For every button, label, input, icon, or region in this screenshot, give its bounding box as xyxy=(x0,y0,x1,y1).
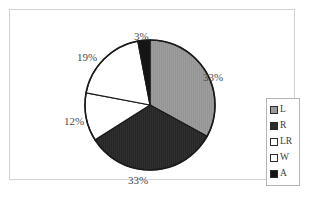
legend-label-lr: LR xyxy=(280,137,292,147)
pie-label-lr: 12% xyxy=(64,115,84,127)
legend-swatch-r-icon xyxy=(270,122,278,130)
legend-item-w: W xyxy=(270,150,299,166)
pie-label-r: 33% xyxy=(128,174,148,186)
legend-swatch-l-icon xyxy=(270,106,278,114)
plot-frame: 3% 19% 12% 33% 33% L R LR W A xyxy=(9,9,295,180)
pie-label-w: 19% xyxy=(77,51,97,63)
legend-item-r: R xyxy=(270,118,299,134)
legend-label-l: L xyxy=(280,105,286,115)
pie-svg xyxy=(83,38,217,172)
legend-item-a: A xyxy=(270,166,299,182)
legend-label-w: W xyxy=(280,153,289,163)
pie-chart-figure: 3% 19% 12% 33% 33% L R LR W A xyxy=(0,0,314,197)
legend-swatch-a-icon xyxy=(270,170,278,178)
legend-swatch-lr-icon xyxy=(270,138,278,146)
legend-label-r: R xyxy=(280,121,286,131)
pie-slices xyxy=(85,40,215,170)
chart-legend: L R LR W A xyxy=(266,98,300,186)
legend-swatch-w-icon xyxy=(270,154,278,162)
legend-item-l: L xyxy=(270,102,299,118)
legend-label-a: A xyxy=(280,169,287,179)
pie-label-a: 3% xyxy=(134,30,149,42)
pie-container xyxy=(83,38,217,172)
pie-label-l: 33% xyxy=(203,71,223,83)
legend-item-lr: LR xyxy=(270,134,299,150)
